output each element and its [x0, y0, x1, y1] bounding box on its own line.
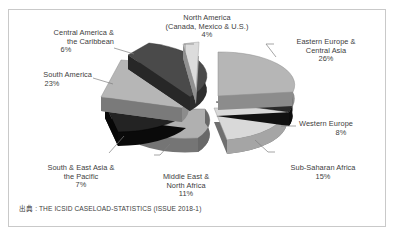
label-central-america-line2: the Caribbean: [67, 37, 114, 46]
label-south-east-asia-pct: 7%: [22, 181, 140, 190]
label-central-america-caribbean: Central America & the Caribbean 6%: [18, 29, 114, 55]
figure-root: North America (Canada, Mexico & U.S.) 4%…: [0, 0, 396, 238]
label-eastern-europe-central-asia: Eastern Europe & Central Asia 26%: [276, 38, 376, 64]
label-central-america-pct: 6%: [18, 46, 114, 55]
label-south-america-line1: South America: [43, 70, 92, 79]
source-caption: 出典 : THE ICSID CASELOAD-STATISTICS (ISSU…: [19, 203, 201, 213]
label-south-east-asia-pacific: South & East Asia & the Pacific 7%: [22, 164, 140, 190]
leader-central-america: [114, 48, 134, 54]
label-western-europe-pct: 8%: [299, 129, 383, 138]
label-sub-saharan-line1: Sub-Saharan Africa: [291, 163, 356, 172]
label-western-europe-line1: Western Europe: [299, 119, 353, 128]
pie-chart: North America (Canada, Mexico & U.S.) 4%…: [0, 0, 396, 238]
leader-eastern-europe: [266, 44, 276, 57]
label-south-america-pct: 23%: [12, 80, 92, 89]
label-sub-saharan-pct: 15%: [272, 173, 374, 182]
label-north-america-pct: 4%: [142, 31, 272, 40]
label-middle-east-pct: 11%: [146, 190, 226, 199]
label-north-america: North America (Canada, Mexico & U.S.) 4%: [142, 14, 272, 40]
label-sub-saharan-africa: Sub-Saharan Africa 15%: [272, 164, 374, 181]
label-western-europe: Western Europe 8%: [299, 120, 383, 137]
label-south-america: South America 23%: [12, 71, 92, 88]
label-eastern-europe-pct: 26%: [276, 55, 376, 64]
label-middle-east-north-africa: Middle East & North Africa 11%: [146, 173, 226, 199]
